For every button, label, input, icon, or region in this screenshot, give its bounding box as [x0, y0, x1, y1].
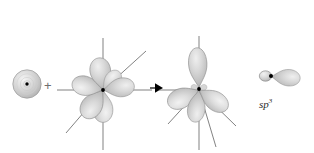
reaction-arrow: [150, 83, 163, 93]
sp3-nucleus-dot: [197, 87, 201, 91]
figure-canvas: [0, 0, 314, 153]
s-orbital-group: [13, 70, 41, 98]
single-sp3-orbital-group: [259, 68, 300, 87]
s-orbital-nucleus-dot: [25, 82, 28, 85]
arrow-head: [155, 83, 163, 93]
p-orbital-nucleus-dot: [101, 88, 105, 92]
sp3-label-base: sp: [259, 98, 269, 110]
orbital-hybridization-figure: + sp3: [0, 0, 314, 153]
single-sp3-front-lobe: [270, 68, 300, 87]
plus-operator: +: [44, 79, 52, 92]
single-sp3-nucleus-dot: [269, 74, 273, 78]
sp3-hybrid-set-group: [159, 36, 236, 150]
three-p-orbitals-group: [57, 38, 152, 150]
sp3-orbital-label: sp3: [259, 99, 272, 110]
sp3-label-exponent: 3: [269, 97, 273, 105]
sp3-lobe-up: [188, 47, 208, 88]
